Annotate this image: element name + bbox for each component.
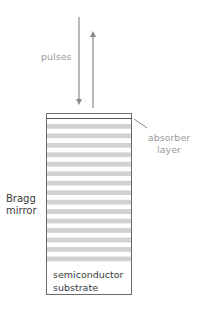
- mirror-layer-stripe: [47, 171, 131, 176]
- bragg-mirror-layers: [47, 124, 131, 261]
- mirror-layer-stripe: [47, 200, 131, 205]
- mirror-layer-stripe: [47, 228, 131, 233]
- bragg-label-line2: mirror: [6, 205, 37, 217]
- mirror-layer-stripe: [47, 257, 131, 262]
- absorber-label-line1: absorber: [144, 132, 194, 144]
- absorber-pointer-line: [134, 119, 147, 128]
- mirror-layer-stripe: [47, 162, 131, 167]
- mirror-layer-stripe: [47, 209, 131, 214]
- mirror-layer-stripe: [47, 143, 131, 148]
- substrate-label-line1: semiconductor: [53, 268, 123, 281]
- mirror-layer-stripe: [47, 133, 131, 138]
- substrate-label-line2: substrate: [53, 281, 123, 294]
- bragg-mirror-label: Bragg mirror: [6, 193, 37, 217]
- mirror-layer-stripe: [47, 124, 131, 129]
- mirror-layer-stripe: [47, 219, 131, 224]
- absorber-label-line2: layer: [144, 144, 194, 156]
- mirror-layer-stripe: [47, 238, 131, 243]
- bragg-label-line1: Bragg: [6, 193, 37, 205]
- mirror-layer-stripe: [47, 247, 131, 252]
- absorber-layer-label: absorber layer: [144, 132, 194, 156]
- mirror-layer-stripe: [47, 181, 131, 186]
- substrate-label: semiconductor substrate: [53, 268, 123, 294]
- pulses-label: pulses: [41, 51, 71, 63]
- mirror-layer-stripe: [47, 190, 131, 195]
- mirror-layer-stripe: [47, 152, 131, 157]
